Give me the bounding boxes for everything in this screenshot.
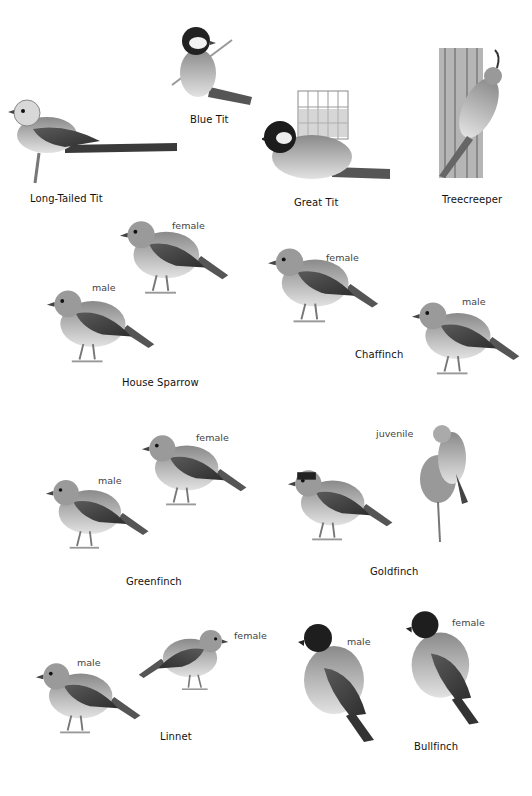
great-tit-illustration	[262, 85, 397, 190]
variant-label-bullfinch-female: female	[452, 617, 485, 628]
bullfinch-male-illustration	[294, 622, 394, 742]
species-label-house-sparrow: House Sparrow	[122, 377, 199, 388]
chaffinch-female-illustration	[266, 238, 384, 328]
blue-tit-illustration	[170, 25, 255, 110]
species-label-linnet: Linnet	[160, 731, 192, 742]
species-label-great-tit: Great Tit	[294, 197, 338, 208]
species-label-blue-tit: Blue Tit	[190, 114, 229, 125]
variant-label-linnet-male: male	[77, 657, 101, 668]
long-tailed-tit-illustration	[5, 95, 180, 185]
variant-label-goldfinch-juvenile: juvenile	[376, 428, 413, 439]
variant-label-greenfinch-female: female	[196, 432, 229, 443]
variant-label-chaffinch-male: male	[462, 296, 486, 307]
species-label-chaffinch: Chaffinch	[355, 349, 403, 360]
species-label-greenfinch: Greenfinch	[126, 576, 182, 587]
species-label-long-tailed-tit: Long-Tailed Tit	[30, 193, 103, 204]
treecreeper-illustration	[435, 48, 515, 178]
species-label-treecreeper: Treecreeper	[442, 194, 502, 205]
variant-label-greenfinch-male: male	[98, 475, 122, 486]
variant-label-house-sparrow-female: female	[172, 220, 205, 231]
linnet-female-illustration	[134, 612, 230, 704]
variant-label-linnet-female: female	[234, 630, 267, 641]
variant-label-chaffinch-female: female	[326, 252, 359, 263]
species-label-goldfinch: Goldfinch	[370, 566, 418, 577]
species-label-bullfinch: Bullfinch	[414, 741, 458, 752]
variant-label-house-sparrow-male: male	[92, 282, 116, 293]
goldfinch-juvenile-illustration	[412, 424, 474, 544]
goldfinch-adult-illustration	[286, 455, 398, 551]
variant-label-bullfinch-male: male	[347, 636, 371, 647]
